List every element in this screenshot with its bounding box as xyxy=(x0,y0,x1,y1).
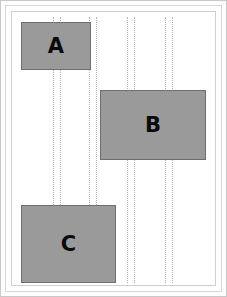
block-a-label: A xyxy=(48,36,64,57)
block-c-label: C xyxy=(61,234,76,255)
block-a: A xyxy=(21,22,91,70)
drawing-surface: A B C xyxy=(12,12,215,285)
figure-canvas: A B C xyxy=(0,0,227,297)
block-c: C xyxy=(21,205,116,283)
block-b-label: B xyxy=(145,115,161,136)
block-b: B xyxy=(100,90,206,160)
